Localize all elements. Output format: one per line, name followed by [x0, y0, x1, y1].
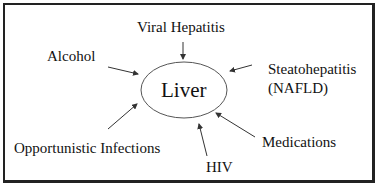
- arrow-steatohepatitis: [230, 65, 252, 71]
- factor-steatohepatitis-sub: (NAFLD): [268, 79, 328, 97]
- factor-alcohol: Alcohol: [47, 47, 95, 65]
- arrow-opportunistic: [108, 104, 137, 129]
- factor-medications: Medications: [262, 133, 336, 151]
- factor-hiv: HIV: [206, 158, 233, 176]
- arrow-alcohol: [108, 67, 138, 74]
- factor-viral-hepatitis: Viral Hepatitis: [137, 18, 225, 36]
- arrow-hiv: [199, 124, 207, 156]
- arrow-medications: [216, 113, 255, 137]
- factor-opportunistic-infections: Opportunistic Infections: [14, 139, 160, 157]
- center-liver-label: Liver: [161, 78, 206, 102]
- factor-steatohepatitis: Steatohepatitis: [268, 60, 356, 78]
